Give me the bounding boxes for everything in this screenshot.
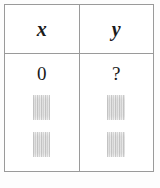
column-header-x: x <box>37 19 47 39</box>
table-cell-y-column: ? <box>80 54 154 171</box>
redacted-block-x-2 <box>33 132 50 157</box>
cell-value-y: ? <box>112 63 120 84</box>
table-body-row: 0 ? <box>5 54 153 171</box>
redacted-block-y-1 <box>107 95 125 120</box>
table-header-cell-x: x <box>5 5 80 53</box>
redacted-block-y-2 <box>107 132 125 157</box>
table-cell-x-column: 0 <box>5 54 80 171</box>
xy-value-table: x y 0 ? <box>4 4 154 172</box>
table-header-row: x y <box>5 5 153 54</box>
table-header-cell-y: y <box>80 5 154 53</box>
column-header-y: y <box>112 19 121 39</box>
cell-value-x: 0 <box>37 63 47 84</box>
redacted-block-x-1 <box>33 95 50 120</box>
